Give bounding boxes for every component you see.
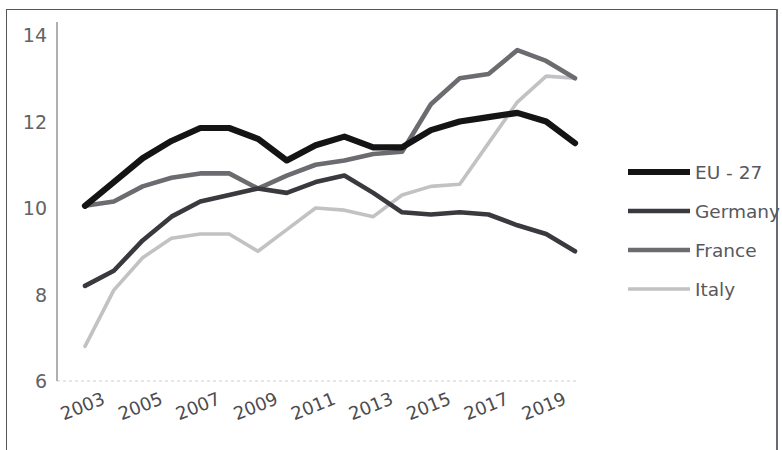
- x-tick-label: 2007: [173, 388, 223, 425]
- x-tick-label: 2017: [461, 388, 511, 425]
- x-tick-label: 2005: [115, 388, 165, 425]
- y-tick-label: 12: [23, 111, 47, 133]
- legend-label: Italy: [695, 279, 735, 300]
- x-tick-label: 2009: [230, 388, 280, 425]
- x-tick-label: 2011: [288, 388, 338, 425]
- x-tick-labels: 200320052007200920112013201520172019: [57, 388, 569, 425]
- legend-label: EU - 27: [695, 162, 762, 183]
- y-tick-label: 14: [23, 24, 47, 46]
- series-line: [85, 50, 575, 206]
- x-tick-label: 2003: [57, 388, 107, 425]
- series-line: [85, 176, 575, 286]
- chart-svg: 68101214 2003200520072009201120132015201…: [0, 0, 782, 450]
- y-tick-label: 6: [35, 370, 47, 392]
- x-tick-label: 2013: [346, 388, 396, 425]
- chart-page: 68101214 2003200520072009201120132015201…: [0, 0, 782, 450]
- y-tick-labels: 68101214: [23, 24, 47, 392]
- chart-legend: EU - 27GermanyFranceItaly: [628, 162, 780, 300]
- x-tick-label: 2015: [403, 388, 453, 425]
- x-tick-label: 2019: [519, 388, 569, 425]
- data-series: [85, 50, 575, 346]
- line-chart: 68101214 2003200520072009201120132015201…: [0, 0, 782, 450]
- y-tick-label: 8: [35, 284, 47, 306]
- legend-label: Germany: [695, 201, 780, 222]
- legend-label: France: [695, 240, 757, 261]
- y-tick-label: 10: [23, 197, 47, 219]
